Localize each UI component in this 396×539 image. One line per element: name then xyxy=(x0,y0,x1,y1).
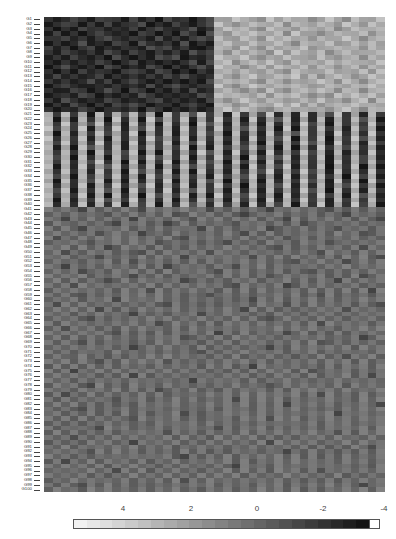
heatmap-grid xyxy=(44,17,385,492)
heatmap-cell xyxy=(155,487,164,492)
row-tick xyxy=(34,143,40,144)
colorbar-tick-labels: 420-2-4 xyxy=(0,504,396,516)
row-tick xyxy=(34,124,40,125)
row-tick xyxy=(34,456,40,457)
row-tick xyxy=(34,352,40,353)
row-tick xyxy=(34,333,40,334)
row-tick xyxy=(34,271,40,272)
heatmap-cell xyxy=(368,487,377,492)
row-tick xyxy=(34,385,40,386)
row-tick xyxy=(34,81,40,82)
row-tick xyxy=(34,29,40,30)
row-tick xyxy=(34,433,40,434)
row-tick xyxy=(34,323,40,324)
row-tick xyxy=(34,414,40,415)
row-tick xyxy=(34,76,40,77)
heatmap-cell xyxy=(334,487,343,492)
row-tick xyxy=(34,390,40,391)
heatmap-cell xyxy=(249,487,258,492)
row-tick xyxy=(34,471,40,472)
colorbar-tick-label: 4 xyxy=(121,504,125,513)
heatmap-cell xyxy=(44,487,53,492)
row-tick xyxy=(34,347,40,348)
row-tick xyxy=(34,328,40,329)
row-tick xyxy=(34,110,40,111)
row-tick xyxy=(34,423,40,424)
row-tick xyxy=(34,171,40,172)
row-tick xyxy=(34,376,40,377)
colorbar-swatch xyxy=(215,520,228,528)
colorbar-swatch xyxy=(331,520,344,528)
row-tick xyxy=(34,285,40,286)
row-tick xyxy=(34,461,40,462)
row-tick xyxy=(34,200,40,201)
heatmap-cell xyxy=(223,487,232,492)
colorbar-swatch xyxy=(202,520,215,528)
colorbar-swatch xyxy=(292,520,305,528)
heatmap-cell xyxy=(197,487,206,492)
colorbar-swatch xyxy=(177,520,190,528)
row-tick xyxy=(34,181,40,182)
row-tick xyxy=(34,205,40,206)
colorbar-swatch xyxy=(151,520,164,528)
colorbar-swatch xyxy=(100,520,113,528)
row-tick xyxy=(34,19,40,20)
row-tick xyxy=(34,224,40,225)
row-tick xyxy=(34,167,40,168)
heatmap-cell xyxy=(283,487,292,492)
row-tick xyxy=(34,176,40,177)
heatmap-cell xyxy=(121,487,130,492)
row-tick xyxy=(34,452,40,453)
row-tick xyxy=(34,428,40,429)
heatmap-cell xyxy=(317,487,326,492)
heatmap-cell xyxy=(300,487,309,492)
row-tick xyxy=(34,91,40,92)
row-tick xyxy=(34,380,40,381)
colorbar-swatch xyxy=(318,520,331,528)
heatmap-cell xyxy=(112,487,121,492)
row-tick xyxy=(34,485,40,486)
row-tick xyxy=(34,48,40,49)
row-tick xyxy=(34,228,40,229)
row-tick xyxy=(34,338,40,339)
row-tick xyxy=(34,138,40,139)
colorbar-swatch xyxy=(266,520,279,528)
heatmap-cell xyxy=(342,487,351,492)
colorbar-swatch xyxy=(74,520,87,528)
heatmap-cell xyxy=(214,487,223,492)
row-tick xyxy=(34,57,40,58)
colorbar-swatch xyxy=(279,520,292,528)
row-tick xyxy=(34,262,40,263)
row-tick xyxy=(34,209,40,210)
heatmap-cell xyxy=(308,487,317,492)
row-tick xyxy=(34,466,40,467)
row-tick xyxy=(34,24,40,25)
colorbar-swatch xyxy=(112,520,125,528)
heatmap-cell xyxy=(146,487,155,492)
heatmap-cell xyxy=(274,487,283,492)
row-tick xyxy=(34,38,40,39)
row-tick xyxy=(34,53,40,54)
row-tick xyxy=(34,475,40,476)
row-tick xyxy=(34,157,40,158)
row-tick xyxy=(34,290,40,291)
row-tick xyxy=(34,409,40,410)
row-tick xyxy=(34,186,40,187)
row-tick xyxy=(34,300,40,301)
row-tick xyxy=(34,399,40,400)
heatmap-cell xyxy=(359,487,368,492)
heatmap-cell xyxy=(87,487,96,492)
row-tick xyxy=(34,257,40,258)
row-tick xyxy=(34,34,40,35)
colorbar-swatch xyxy=(138,520,151,528)
colorbar-swatch xyxy=(343,520,356,528)
heatmap-cell xyxy=(240,487,249,492)
heatmap-cell xyxy=(376,487,385,492)
row-tick xyxy=(34,357,40,358)
row-tick xyxy=(34,295,40,296)
heatmap-cell xyxy=(61,487,70,492)
row-tick xyxy=(34,342,40,343)
row-tick xyxy=(34,72,40,73)
row-tick xyxy=(34,129,40,130)
heatmap-cell xyxy=(163,487,172,492)
